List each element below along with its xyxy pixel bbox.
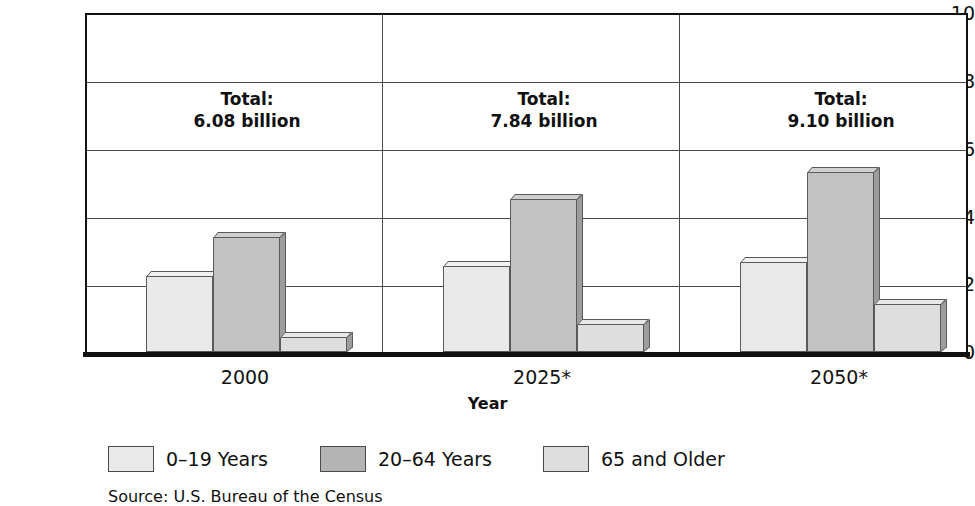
total-annotation-2050: Total: 9.10 billion <box>741 88 941 132</box>
legend-label-0-19: 0–19 Years <box>166 450 268 469</box>
gridline-8 <box>87 82 966 83</box>
bar-top <box>510 194 582 200</box>
legend-swatch-65-older-icon <box>543 446 589 472</box>
bar-top <box>213 232 285 238</box>
total-label-2000: Total: <box>147 88 347 110</box>
legend: 0–19 Years 20–64 Years 65 and Older <box>0 446 975 478</box>
bar-top <box>807 167 879 173</box>
bar-face <box>280 337 347 352</box>
legend-item-65-older: 65 and Older <box>543 446 725 472</box>
bar-face <box>740 262 807 352</box>
bar-top <box>146 271 218 277</box>
x-tick-2000: 2000 <box>145 366 345 388</box>
bar-2050-20-64 <box>807 172 874 352</box>
group-separator-2 <box>679 15 680 352</box>
group-separator-1 <box>382 15 383 352</box>
bar-2025-20-64 <box>510 199 577 352</box>
bar-top <box>740 257 812 263</box>
total-value-2000: 6.08 billion <box>147 110 347 132</box>
bar-2000-65-older <box>280 337 347 352</box>
y-axis-title-text: Billions of people <box>0 0 11 50</box>
bar-2000-20-64 <box>213 237 280 352</box>
total-value-2025: 7.84 billion <box>444 110 644 132</box>
source-note: Source: U.S. Bureau of the Census <box>108 487 383 506</box>
bar-2050-0-19 <box>740 262 807 352</box>
legend-swatch-20-64-icon <box>320 446 366 472</box>
legend-item-20-64: 20–64 Years <box>320 446 492 472</box>
bar-face <box>577 324 644 352</box>
bar-face <box>807 172 874 352</box>
total-annotation-2000: Total: 6.08 billion <box>147 88 347 132</box>
bar-face <box>146 276 213 352</box>
total-label-2050: Total: <box>741 88 941 110</box>
legend-swatch-0-19-icon <box>108 446 154 472</box>
bar-2000-0-19 <box>146 276 213 352</box>
x-tick-2050: 2050* <box>739 366 939 388</box>
bar-face <box>213 237 280 352</box>
bar-side <box>941 299 947 352</box>
x-axis-line <box>83 352 970 357</box>
bar-top <box>577 319 649 325</box>
legend-label-65-older: 65 and Older <box>601 450 725 469</box>
bar-top <box>874 299 946 305</box>
bar-2025-65-older <box>577 324 644 352</box>
total-value-2050: 9.10 billion <box>741 110 941 132</box>
legend-label-20-64: 20–64 Years <box>378 450 492 469</box>
bar-top <box>443 261 515 267</box>
y-axis-title: Billions of people <box>0 0 11 50</box>
bar-face <box>510 199 577 352</box>
gridline-6 <box>87 150 966 151</box>
bar-face <box>874 304 941 352</box>
legend-item-0-19: 0–19 Years <box>108 446 268 472</box>
bar-top <box>280 332 352 338</box>
total-annotation-2025: Total: 7.84 billion <box>444 88 644 132</box>
x-tick-2025: 2025* <box>442 366 642 388</box>
total-label-2025: Total: <box>444 88 644 110</box>
bar-2025-0-19 <box>443 266 510 352</box>
plot-area: Total: 6.08 billion Total: 7.84 billion … <box>85 13 968 352</box>
bar-face <box>443 266 510 352</box>
bar-2050-65-older <box>874 304 941 352</box>
x-axis-title: Year <box>0 394 975 413</box>
